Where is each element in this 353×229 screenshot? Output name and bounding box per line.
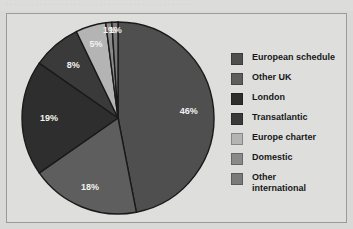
legend-item[interactable]: European schedule (231, 52, 343, 66)
legend-swatch (231, 53, 243, 65)
legend-swatch (231, 133, 243, 145)
legend-swatch (231, 93, 243, 105)
legend-item[interactable]: Other international (231, 172, 343, 193)
cropped-text-fragment: · · · · · · · · · · · · · · · · · · · · … (6, 1, 192, 7)
pie-chart-svg: 46%18%19%8%5%1%1% (15, 18, 221, 218)
legend-swatch (231, 113, 243, 125)
pie-slice-label: 5% (90, 39, 103, 49)
pie-slice[interactable] (118, 22, 214, 212)
legend-label: European schedule (252, 52, 335, 63)
legend-item[interactable]: Europe charter (231, 132, 343, 146)
pie-chart: 46%18%19%8%5%1%1% (15, 18, 221, 218)
legend-label: London (252, 92, 285, 103)
pie-slice-label: 18% (81, 182, 99, 192)
legend-label: Transatlantic (252, 112, 308, 123)
legend-swatch (231, 153, 243, 165)
legend-label: Other international (252, 172, 306, 193)
legend-label: Domestic (252, 152, 293, 163)
chart-legend: European scheduleOther UKLondonTransatla… (231, 52, 343, 199)
legend-label: Other UK (252, 72, 292, 83)
legend-swatch (231, 73, 243, 85)
legend-item[interactable]: Transatlantic (231, 112, 343, 126)
cropped-text-sliver: · · · · · · · · · · · · · · · · · · · · … (0, 0, 353, 11)
pie-slice-label: 19% (40, 113, 58, 123)
chart-figure: 46%18%19%8%5%1%1% European scheduleOther… (6, 13, 347, 223)
pie-slice-label: 1% (109, 25, 122, 35)
legend-item[interactable]: London (231, 92, 343, 106)
pie-slice-label: 8% (67, 60, 80, 70)
pie-slice-label: 46% (180, 106, 198, 116)
legend-item[interactable]: Domestic (231, 152, 343, 166)
legend-item[interactable]: Other UK (231, 72, 343, 86)
legend-label: Europe charter (252, 132, 316, 143)
legend-swatch (231, 173, 243, 185)
